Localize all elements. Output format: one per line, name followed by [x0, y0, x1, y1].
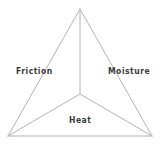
- triangle-diagram: Friction Moisture Heat: [0, 0, 161, 152]
- face-label-heat: Heat: [69, 115, 91, 126]
- face-label-moisture: Moisture: [108, 66, 150, 77]
- face-label-friction: Friction: [16, 66, 53, 77]
